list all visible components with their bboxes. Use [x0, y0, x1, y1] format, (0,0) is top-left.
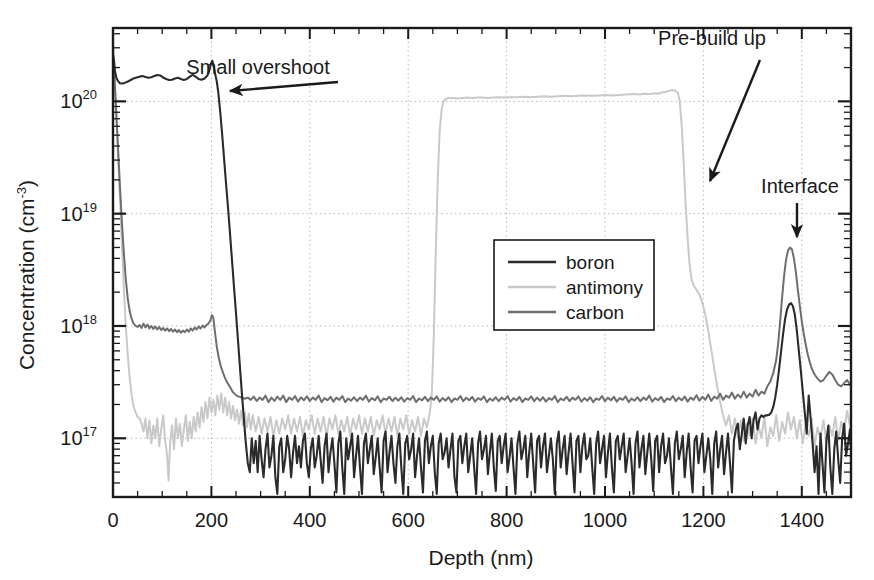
annotation-label: Small overshoot	[186, 56, 330, 78]
x-tick-label: 400	[293, 509, 326, 531]
chart-legend: boronantimonycarbon	[494, 240, 654, 330]
x-tick-label: 1400	[780, 509, 825, 531]
x-axis-title: Depth (nm)	[428, 546, 533, 569]
x-tick-label: 600	[392, 509, 425, 531]
y-axis-title-text: Concentration (cm-3)	[14, 180, 38, 370]
y-axis-title: Concentration (cm-3)	[14, 180, 38, 370]
x-tick-label: 1200	[681, 509, 726, 531]
concentration-depth-chart: 0200400600800100012001400 10171018101910…	[0, 0, 874, 580]
legend-label-antimony: antimony	[566, 277, 644, 298]
x-tick-label: 1000	[583, 509, 628, 531]
x-tick-label: 0	[107, 509, 118, 531]
legend-label-boron: boron	[566, 252, 615, 273]
legend-label-carbon: carbon	[566, 302, 624, 323]
x-tick-label: 800	[490, 509, 523, 531]
simsc-depth-profile-figure: 0200400600800100012001400 10171018101910…	[0, 0, 874, 580]
annotation-label: Interface	[761, 175, 839, 197]
annotation-label: Pre-build up	[658, 27, 766, 49]
x-tick-label: 200	[195, 509, 228, 531]
